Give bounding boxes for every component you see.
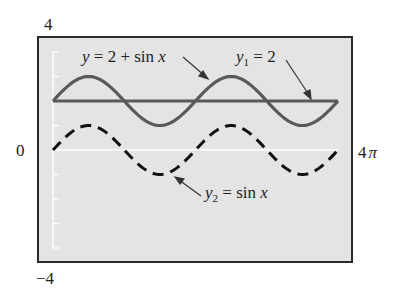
y-tick-label-bottom: −4 [36, 269, 55, 288]
x-tick-label-right: 4π [358, 143, 378, 162]
chart: 4 0 −4 4π y = 2 + sin x y1 = 2 y2 = sin … [0, 0, 398, 302]
annotation-y1-equals-2: y1 = 2 [234, 47, 276, 68]
y-tick-label-zero: 0 [16, 141, 25, 160]
y-tick-label-top: 4 [44, 15, 53, 34]
annotation-2-plus-sin-x: y = 2 + sin x [80, 47, 166, 66]
